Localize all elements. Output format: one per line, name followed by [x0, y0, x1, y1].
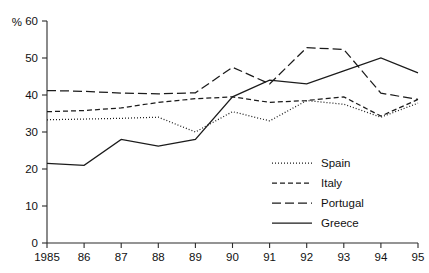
y-axis: 0102030405060 — [25, 15, 47, 249]
legend-label-greece: Greece — [321, 217, 359, 229]
x-tick-label: 88 — [152, 251, 165, 263]
x-tick-label: 92 — [300, 251, 313, 263]
y-tick-label: 30 — [25, 126, 38, 138]
x-tick-label: 93 — [337, 251, 350, 263]
x-tick-label: 1985 — [34, 251, 60, 263]
x-tick-label: 94 — [375, 251, 388, 263]
series-line-spain — [47, 101, 418, 132]
series-lines — [47, 48, 418, 166]
legend-label-portugal: Portugal — [321, 197, 364, 209]
x-axis: 198586878889909192939495 — [34, 243, 424, 263]
chart-canvas: 0102030405060 198586878889909192939495 S… — [0, 0, 429, 273]
series-line-italy — [47, 97, 418, 116]
y-tick-label: 50 — [25, 52, 38, 64]
legend-label-spain: Spain — [321, 157, 350, 169]
y-tick-label: 10 — [25, 200, 38, 212]
x-tick-label: 86 — [78, 251, 91, 263]
y-tick-label: 20 — [25, 163, 38, 175]
x-tick-label: 87 — [115, 251, 128, 263]
x-tick-label: 95 — [412, 251, 425, 263]
y-tick-label: 40 — [25, 89, 38, 101]
x-tick-label: 89 — [189, 251, 202, 263]
series-line-greece — [47, 58, 418, 165]
x-tick-label: 90 — [226, 251, 239, 263]
series-line-portugal — [47, 48, 418, 100]
chart-legend: SpainItalyPortugalGreece — [272, 157, 364, 229]
y-tick-label: 0 — [32, 237, 38, 249]
line-chart: 0102030405060 198586878889909192939495 S… — [0, 0, 429, 273]
x-tick-label: 91 — [263, 251, 276, 263]
y-tick-label: 60 — [25, 15, 38, 27]
y-axis-unit-label: % — [12, 16, 22, 28]
legend-label-italy: Italy — [321, 177, 342, 189]
